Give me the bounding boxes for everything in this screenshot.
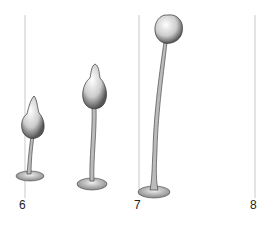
stage-label-6: 6 [19,198,26,212]
sporangium-stage-c [138,15,183,198]
sporangium-stage-a [16,96,44,181]
stage-label-7: 7 [134,198,141,212]
illustration [0,0,269,225]
stage-label-8: 8 [250,198,257,212]
sporangium-stage-b [77,64,107,190]
